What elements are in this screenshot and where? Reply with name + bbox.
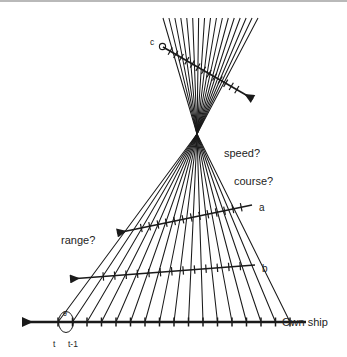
track-a-tick xyxy=(199,212,201,220)
theta-label: θ xyxy=(63,310,67,317)
track-a-tick xyxy=(174,217,176,225)
bearing-line xyxy=(197,18,247,322)
track-b-tick xyxy=(103,272,104,280)
track-a-line xyxy=(117,205,252,233)
bearing-line xyxy=(197,18,290,322)
track-b-line xyxy=(70,265,255,279)
track-b xyxy=(70,262,255,281)
track-b-tick xyxy=(149,269,150,277)
speed-question-label: speed? xyxy=(224,147,260,159)
track-b-tick xyxy=(228,263,229,271)
time-t-minus-1-label: t-1 xyxy=(68,339,78,349)
track-a-tick xyxy=(190,213,192,221)
track-a-tick xyxy=(182,215,184,223)
diagram-svg: Own ship speed? course? range? a b c t t… xyxy=(0,0,347,357)
track-c-origin-circle xyxy=(159,43,165,49)
course-question-label: course? xyxy=(234,175,273,187)
track-a-tick xyxy=(207,210,209,218)
track-b-tick xyxy=(137,270,138,278)
track-b-tick xyxy=(114,271,115,279)
track-b-tick xyxy=(183,266,184,274)
figure-canvas: Own ship speed? course? range? a b c t t… xyxy=(0,0,347,357)
own-ship-track-axis xyxy=(22,318,306,327)
track-b-tick xyxy=(206,265,207,273)
track-c-line xyxy=(163,47,253,99)
track-b-tick xyxy=(240,262,241,270)
track-b-tick xyxy=(126,271,127,279)
time-t-label: t xyxy=(53,339,56,349)
track-c xyxy=(163,47,253,99)
track-b-tick xyxy=(194,265,195,273)
track-b-tick xyxy=(217,264,218,272)
bearing-fan-lines xyxy=(58,18,290,322)
track-b-tick xyxy=(160,268,161,276)
candidate-track-lines xyxy=(70,47,255,281)
track-a-tick xyxy=(232,205,234,213)
track-a-label: a xyxy=(259,202,265,213)
track-c-label: c xyxy=(150,37,155,47)
track-a-tick xyxy=(240,203,242,211)
track-b-label: b xyxy=(262,263,268,274)
track-a-tick xyxy=(157,220,159,228)
track-b-tick xyxy=(171,267,172,275)
range-question-label: range? xyxy=(61,234,95,246)
own-ship-label: Own ship xyxy=(282,316,328,328)
